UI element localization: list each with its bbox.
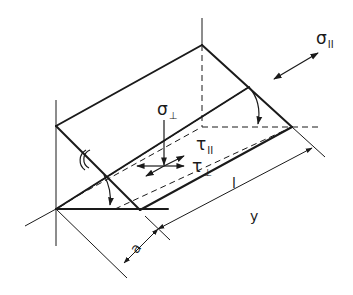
tau-perp-subscript: ⊥	[203, 167, 212, 178]
sigma-perp-subscript: ⊥	[169, 110, 178, 121]
tau-perp-label: τ⊥	[192, 158, 212, 175]
construction-lines	[25, 18, 325, 278]
sigma-parallel-symbol: σ	[316, 28, 327, 48]
tau-perp-symbol: τ	[192, 156, 202, 176]
length-label: l	[232, 176, 236, 190]
tau-parallel-label: τII	[196, 136, 213, 153]
weld-diagram	[0, 0, 353, 295]
sigma-parallel-label: σII	[316, 30, 334, 47]
dimension-lines	[124, 148, 312, 263]
sigma-parallel-subscript: II	[328, 39, 334, 50]
tau-parallel-symbol: τ	[196, 134, 206, 154]
y-dimension-label: y	[250, 209, 258, 223]
sigma-perp-label: σ⊥	[157, 101, 178, 118]
tau-parallel-subscript: II	[207, 145, 213, 156]
sigma-perp-symbol: σ	[157, 99, 168, 119]
